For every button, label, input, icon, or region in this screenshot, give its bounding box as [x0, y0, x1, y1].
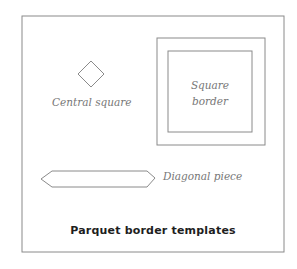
square-border-label-line2: border — [172, 93, 248, 109]
square-border-label: Square border — [172, 77, 248, 109]
diagonal-piece-hexagon-icon — [41, 171, 155, 187]
central-square-label: Central square — [52, 97, 130, 108]
diagonal-piece-label: Diagonal piece — [163, 171, 242, 182]
square-border-label-line1: Square — [172, 77, 248, 93]
parquet-diagram: Central square Square border Diagonal pi… — [0, 0, 297, 269]
central-square-diamond-icon — [78, 61, 104, 87]
figure-title: Parquet border templates — [22, 225, 284, 236]
